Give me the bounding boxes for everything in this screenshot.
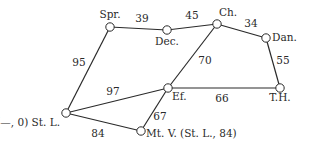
edge-weight-label: 34 bbox=[244, 17, 258, 29]
edge-weight-label: 70 bbox=[198, 54, 211, 66]
edge-weight-label: 45 bbox=[185, 9, 198, 21]
node-ch bbox=[213, 20, 221, 28]
node-stl bbox=[62, 109, 70, 117]
edge-weight-label: 39 bbox=[135, 12, 148, 24]
node-label-ef: Ef. bbox=[172, 90, 187, 102]
edge-spr-dec bbox=[110, 27, 167, 30]
edge-dec-ch bbox=[167, 24, 217, 30]
edge-weight-label: 84 bbox=[91, 127, 105, 139]
node-label-dec: Dec. bbox=[155, 35, 179, 47]
edge-weight-label: 66 bbox=[215, 92, 229, 104]
edge-weight-label: 55 bbox=[276, 54, 289, 66]
node-mtv bbox=[137, 127, 145, 135]
node-dan bbox=[262, 34, 270, 42]
node-label-dan: Dan. bbox=[272, 31, 297, 43]
node-dec bbox=[163, 26, 171, 34]
edge-weight-label: 95 bbox=[72, 56, 85, 68]
node-label-stl: (—, 0) St. L. bbox=[0, 116, 60, 128]
edge-ch-dan bbox=[217, 24, 266, 38]
node-label-spr: Spr. bbox=[99, 8, 120, 20]
node-label-ch: Ch. bbox=[219, 6, 237, 18]
node-ef bbox=[164, 84, 172, 92]
node-spr bbox=[106, 23, 114, 31]
node-label-th: T.H. bbox=[269, 91, 290, 103]
edge-weight-label: 97 bbox=[106, 85, 119, 97]
graph-diagram: 39453495705597668467 Spr.Dec.Ch.Dan.Ef.T… bbox=[0, 0, 310, 152]
edge-weight-label: 67 bbox=[153, 110, 166, 122]
node-label-mtv: Mt. V. (St. L., 84) bbox=[146, 127, 237, 139]
edge-spr-stl bbox=[66, 27, 110, 113]
